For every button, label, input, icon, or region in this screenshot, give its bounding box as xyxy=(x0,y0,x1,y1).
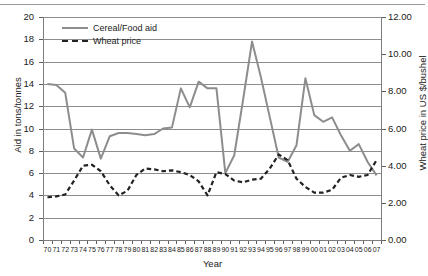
legend-swatch-dashed-line xyxy=(62,36,88,46)
y-axis-left-title: Aid in tons/tonnes xyxy=(13,50,23,180)
chart-legend: Cereal/Food aid Wheat price xyxy=(62,21,157,47)
series-line-cereal-food-aid xyxy=(47,42,376,176)
legend-item-wheat-price: Wheat price xyxy=(62,34,157,47)
series-line-wheat-price xyxy=(47,155,376,198)
legend-item-cereal-food-aid: Cereal/Food aid xyxy=(62,21,157,34)
legend-swatch-solid-line xyxy=(62,23,88,33)
legend-label-wheat-price: Wheat price xyxy=(93,35,141,47)
legend-label-cereal-food-aid: Cereal/Food aid xyxy=(93,22,157,34)
y-axis-right-title: Wheat price in US $/bushel xyxy=(418,33,428,193)
x-axis-title: Year xyxy=(0,259,425,269)
